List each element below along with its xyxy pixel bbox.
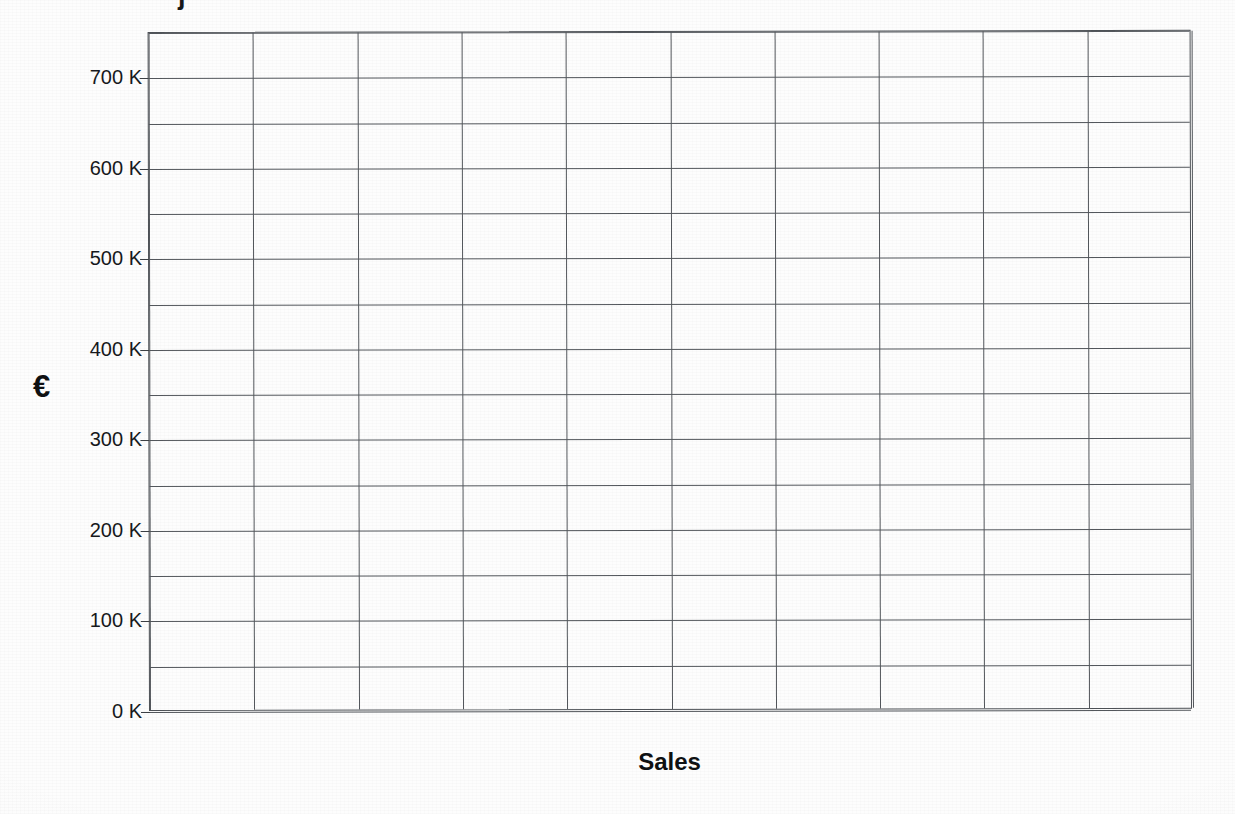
y-axis-title: € (33, 371, 50, 402)
cropped-title-glyph: j (178, 0, 186, 9)
cropped-title-remnant: j (0, 0, 1235, 16)
x-axis-title: Sales (0, 750, 1235, 774)
chart-page: j 700 K600 K500 K400 K300 K200 K100 K0 K… (0, 0, 1235, 814)
x-axis-tick-labels (0, 0, 1235, 814)
x-axis-title-label: Sales (638, 750, 701, 774)
